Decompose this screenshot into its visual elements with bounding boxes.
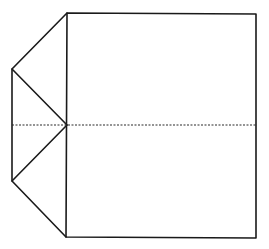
flap-lower-diagonal bbox=[12, 125, 67, 181]
square-outline bbox=[66, 13, 256, 238]
flap-upper-diagonal bbox=[12, 69, 67, 125]
folding-diagram bbox=[0, 0, 269, 249]
